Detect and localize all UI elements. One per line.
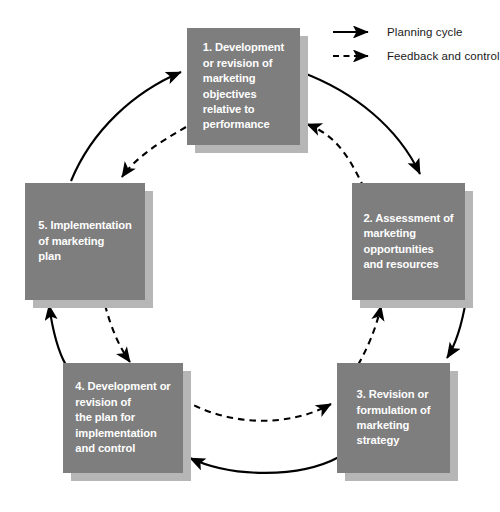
solid-arrow-icon xyxy=(332,26,378,38)
arrow-feedback-3-to-2 xyxy=(358,306,381,365)
arrow-feedback-1-to-5 xyxy=(122,127,186,177)
arrow-planning-4-to-5 xyxy=(49,305,66,365)
arrow-planning-5-to-1 xyxy=(71,72,181,181)
process-box-4-label: 4. Development or revision of the plan f… xyxy=(75,379,170,456)
legend-label-planning-cycle: Planning cycle xyxy=(387,26,463,38)
process-box-5-implementation[interactable]: 5. Implementation of marketing plan xyxy=(25,183,145,300)
arrow-planning-3-to-4 xyxy=(190,457,339,473)
process-box-1-objectives[interactable]: 1. Development or revision of marketing … xyxy=(187,28,300,145)
process-box-5-label: 5. Implementation of marketing plan xyxy=(38,218,131,264)
arrow-planning-1-to-2 xyxy=(301,72,420,174)
legend-item-planning-cycle: Planning cycle xyxy=(332,22,500,42)
arrow-feedback-4-to-3 xyxy=(184,400,331,421)
process-box-3-strategy[interactable]: 3. Revision or formulation of marketing … xyxy=(337,363,450,473)
process-box-2-label: 2. Assessment of marketing opportunities… xyxy=(363,211,453,273)
dashed-arrow-icon xyxy=(332,50,378,62)
arrow-feedback-2-to-1 xyxy=(307,124,364,188)
legend-label-feedback-and-control: Feedback and control xyxy=(387,50,500,62)
arrow-feedback-5-to-4 xyxy=(105,305,130,362)
process-box-4-plan-development[interactable]: 4. Development or revision of the plan f… xyxy=(63,363,183,473)
process-box-2-assessment[interactable]: 2. Assessment of marketing opportunities… xyxy=(352,183,465,300)
legend-item-feedback-and-control: Feedback and control xyxy=(332,46,500,66)
legend: Planning cycle Feedback and control xyxy=(332,22,500,70)
arrow-planning-2-to-3 xyxy=(447,300,466,358)
process-box-1-label: 1. Development or revision of marketing … xyxy=(203,40,284,132)
process-box-3-label: 3. Revision or formulation of marketing … xyxy=(357,387,431,449)
